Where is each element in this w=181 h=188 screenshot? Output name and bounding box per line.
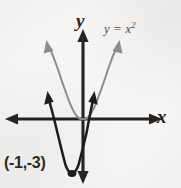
vertex-coordinate-label: (-1,-3) xyxy=(4,154,45,172)
dark-parabola-right-arrowhead xyxy=(88,91,97,105)
curve-equation-label: y = x2 xyxy=(104,22,136,37)
dark-parabola-left-arrowhead xyxy=(44,91,53,105)
dark-parabola-path xyxy=(49,100,93,174)
equation-exponent: 2 xyxy=(131,20,136,30)
x-axis-left-arrowhead xyxy=(5,113,18,124)
vertex-point-marker xyxy=(68,170,77,177)
equation-base: y = x xyxy=(104,22,131,36)
y-axis-label: y xyxy=(76,11,84,30)
x-axis-label: x xyxy=(157,107,167,126)
y-axis-bottom-arrowhead xyxy=(77,171,88,184)
parabola-graph-figure: y x y = x2 (-1,-3) xyxy=(0,0,181,188)
